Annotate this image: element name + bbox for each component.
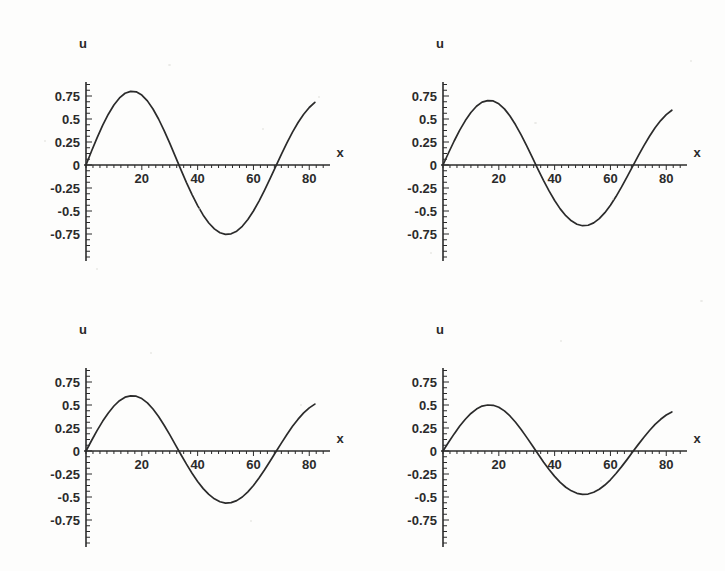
scan-speck [44,140,46,142]
data-curve [443,405,672,494]
y-tick-label: 0 [73,444,80,459]
x-tick-label: 40 [190,171,204,186]
scan-speck [690,60,692,62]
plot-svg-top-right: 204060800.750.50.250-0.25-0.5-0.75x [357,0,719,285]
y-tick-label: 0.5 [419,398,437,413]
data-curve [86,91,315,234]
x-tick-label: 60 [603,171,617,186]
y-tick-label: 0 [73,158,80,173]
scan-speck [150,352,152,354]
scan-speck [600,480,602,482]
y-tick-label: 0.25 [412,135,437,150]
x-tick-label: 80 [659,457,673,472]
y-tick-label: 0 [430,158,437,173]
y-tick-label: -0.5 [415,204,437,219]
y-tick-label: -0.75 [50,513,80,528]
y-tick-label: -0.25 [50,467,80,482]
plot-svg-top-left: 204060800.750.50.250-0.25-0.5-0.75x [0,0,362,285]
y-tick-label: -0.75 [50,227,80,242]
y-tick-label: -0.5 [58,204,80,219]
x-tick-label: 80 [659,171,673,186]
y-tick-label: 0.5 [62,112,80,127]
scan-speck [612,198,614,200]
y-tick-label: 0.5 [419,112,437,127]
scan-speck [300,404,302,406]
y-tick-label: 0 [430,444,437,459]
plot-svg-bottom-right: 204060800.750.50.250-0.25-0.5-0.75x [357,286,719,571]
y-tick-label: 0.25 [412,421,437,436]
x-tick-label: 40 [547,171,561,186]
y-tick-label: 0.75 [55,375,80,390]
y-tick-label: 0.25 [55,135,80,150]
plot-panel-top-right: u 204060800.750.50.250-0.25-0.5-0.75x [357,0,719,285]
x-tick-label: 60 [603,457,617,472]
y-tick-label: -0.25 [50,181,80,196]
plot-svg-bottom-left: 204060800.750.50.250-0.25-0.5-0.75x [0,286,362,571]
plot-panel-bottom-right: u 204060800.750.50.250-0.25-0.5-0.75x [357,286,719,571]
x-tick-label: 80 [302,457,316,472]
y-tick-label: 0.75 [55,89,80,104]
x-tick-label: 80 [302,171,316,186]
scan-speck [430,252,432,254]
x-axis-label-x: x [336,431,344,446]
scan-speck [560,340,562,342]
x-axis-label-x: x [693,145,701,160]
scan-speck [534,122,537,124]
x-tick-label: 20 [135,457,149,472]
plot-panel-top-left: u 204060800.750.50.250-0.25-0.5-0.75x [0,0,362,285]
y-tick-label: -0.5 [415,490,437,505]
scan-speck [262,128,264,130]
x-tick-label: 60 [246,171,260,186]
y-tick-label: 0.75 [412,375,437,390]
y-tick-label: -0.75 [407,513,437,528]
y-tick-label: -0.25 [407,181,437,196]
x-tick-label: 60 [246,457,260,472]
y-tick-label: -0.25 [407,467,437,482]
scan-speck [700,300,703,302]
y-tick-label: 0.75 [412,89,437,104]
x-tick-label: 20 [492,457,506,472]
y-tick-label: -0.75 [407,227,437,242]
scan-speck [198,208,200,210]
x-tick-label: 20 [492,171,506,186]
scan-speck [168,64,171,66]
data-curve [443,101,672,226]
y-tick-label: -0.5 [58,490,80,505]
figure-four-sine-plots: u 204060800.750.50.250-0.25-0.5-0.75x u … [0,0,725,571]
x-tick-label: 20 [135,171,149,186]
x-tick-label: 40 [190,457,204,472]
plot-panel-bottom-left: u 204060800.750.50.250-0.25-0.5-0.75x [0,286,362,571]
data-curve [86,396,315,503]
y-tick-label: 0.25 [55,421,80,436]
scan-speck [96,268,98,270]
y-tick-label: 0.5 [62,398,80,413]
x-axis-label-x: x [693,431,701,446]
scan-speck [318,96,320,98]
x-axis-label-x: x [336,145,344,160]
scan-speck [250,520,252,522]
